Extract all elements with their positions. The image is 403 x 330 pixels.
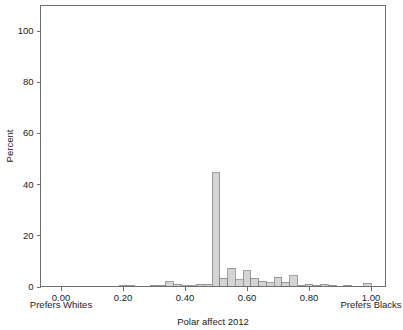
left-anchor-label: Prefers Whites [30,299,93,310]
x-tick-label: 0.80 [300,292,319,303]
histogram-bar [220,278,228,286]
chart-canvas: 0.000.200.400.600.801.00 020406080100 Pe… [0,0,403,330]
figure-background [0,0,403,330]
histogram-bar [274,277,282,286]
x-axis-title: Polar affect 2012 [177,316,249,327]
histogram-bar [290,276,298,287]
y-tick-label: 40 [23,179,34,190]
y-tick-label: 80 [23,76,34,87]
histogram-bar [266,283,274,287]
histogram-bar [282,282,290,286]
x-tick-label: 0.40 [176,292,195,303]
histogram-bar [259,281,267,286]
histogram-bar [251,278,259,286]
histogram-bar [228,268,236,286]
histogram-bar [235,280,243,287]
y-tick-label: 20 [23,230,34,241]
y-tick-label: 60 [23,127,34,138]
x-tick-label: 0.60 [238,292,257,303]
y-axis-title: Percent [4,129,15,162]
y-tick-label: 100 [18,25,34,36]
x-tick-label: 0.20 [114,292,133,303]
histogram-bar [212,173,220,287]
right-anchor-label: Prefers Blacks [340,299,401,310]
histogram-bar [166,282,174,287]
histogram-figure: 0.000.200.400.600.801.00 020406080100 Pe… [0,0,403,330]
y-tick-label: 0 [28,281,33,292]
histogram-bar [243,271,251,287]
